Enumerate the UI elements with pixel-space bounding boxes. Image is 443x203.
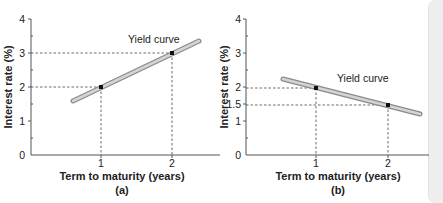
data-point	[314, 86, 318, 90]
y-tick-0: 0	[235, 149, 241, 161]
y-axis-title: Interest rate (%)	[218, 45, 230, 128]
y-tick-2: 2	[235, 81, 241, 93]
y-tick-2: 2	[19, 81, 25, 93]
panel-label: (b)	[331, 184, 345, 196]
panel-label: (a)	[115, 184, 129, 196]
y-tick-1: 1	[235, 115, 241, 127]
yield-curve-label: Yield curve	[337, 72, 389, 84]
y-tick-4: 4	[19, 13, 25, 25]
y-tick-0: 0	[19, 149, 25, 161]
y-tick-1: 1	[19, 115, 25, 127]
data-point	[99, 85, 103, 89]
x-tick-1: 1	[98, 157, 104, 169]
x-axis-title: Term to maturity (years)	[59, 170, 184, 182]
data-point	[170, 51, 174, 55]
x-axis-title: Term to maturity (years)	[275, 170, 400, 182]
guide-lines	[31, 53, 172, 155]
x-tick-1: 1	[313, 157, 319, 169]
chart-panel-a: 4 3 2 1 0 1 2 Interest rate (%) Term to …	[2, 13, 220, 196]
y-tick-3: 3	[19, 47, 25, 59]
y-tick-4: 4	[235, 13, 241, 25]
y-axis-title: Interest rate (%)	[2, 45, 14, 128]
x-tick-2: 2	[385, 157, 391, 169]
y-tick-3: 3	[235, 47, 241, 59]
x-tick-2: 2	[169, 157, 175, 169]
yield-curve-label: Yield curve	[128, 33, 180, 45]
data-point	[386, 103, 390, 107]
chart-panel-b: 4 3 2 1.5 1 0 1 2 Interest rate (%) Term…	[218, 13, 429, 196]
